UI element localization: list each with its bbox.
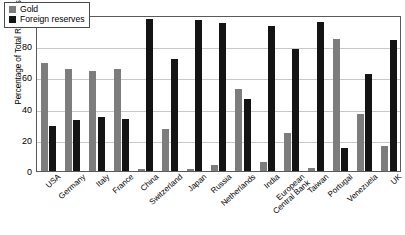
bar-gold	[260, 162, 267, 171]
x-tick-label: USA	[45, 173, 63, 190]
bar-foreign-reserves	[49, 126, 56, 171]
bar-gold	[89, 71, 96, 171]
bar-group	[232, 17, 256, 171]
bar-foreign-reserves	[98, 117, 105, 171]
y-tick-label-1: 20	[22, 136, 32, 146]
bar-gold	[357, 114, 364, 171]
bar-gold	[211, 165, 218, 171]
legend: GoldForeign reserves	[4, 2, 90, 28]
bar-gold	[333, 39, 340, 171]
x-axis-tick-labels: USAGermanyItalyFranceChinaSwitzerlandJap…	[36, 173, 401, 235]
bar-group	[305, 17, 329, 171]
bar-group	[329, 17, 353, 171]
bar-group	[207, 17, 231, 171]
bar-group	[61, 17, 85, 171]
bar-foreign-reserves	[341, 148, 348, 171]
bar-foreign-reserves	[292, 49, 299, 171]
x-tick-label: India	[263, 173, 282, 191]
y-tick-label-3: 60	[22, 73, 32, 83]
bar-group	[183, 17, 207, 171]
bar-group	[353, 17, 377, 171]
bar-foreign-reserves	[73, 120, 80, 171]
bar-foreign-reserves	[365, 74, 372, 171]
bar-gold	[41, 63, 48, 171]
x-tick-label: France	[112, 173, 136, 196]
bar-gold	[187, 169, 194, 171]
x-tick-label: Italy	[95, 173, 112, 189]
bar-group	[134, 17, 158, 171]
bar-foreign-reserves	[390, 40, 397, 171]
bar-foreign-reserves	[122, 119, 129, 171]
legend-swatch-icon	[9, 16, 16, 23]
bar-gold	[162, 129, 169, 171]
bar-foreign-reserves	[195, 20, 202, 171]
bar-gold	[381, 146, 388, 171]
bar-foreign-reserves	[219, 23, 226, 171]
legend-label: Foreign reserves	[20, 15, 84, 25]
bars-layer	[37, 17, 400, 171]
y-tick-label-2: 40	[22, 105, 32, 115]
bar-gold	[308, 168, 315, 171]
y-tick-label-4: 80	[22, 42, 32, 52]
bar-group	[280, 17, 304, 171]
bar-chart: Percentage of Total Reserves 02040608010…	[0, 0, 405, 235]
bar-group	[37, 17, 61, 171]
x-tick-label: Japan	[187, 173, 209, 194]
x-tick-label: UK	[390, 173, 404, 187]
bar-gold	[138, 169, 145, 171]
bar-gold	[65, 69, 72, 171]
bar-foreign-reserves	[268, 26, 275, 171]
plot-area	[36, 16, 401, 172]
bar-foreign-reserves	[244, 99, 251, 171]
bar-group	[256, 17, 280, 171]
y-tick-label-0: 0	[27, 167, 32, 177]
bar-group	[86, 17, 110, 171]
bar-foreign-reserves	[146, 19, 153, 171]
bar-group	[378, 17, 401, 171]
bar-gold	[235, 89, 242, 171]
bar-foreign-reserves	[171, 59, 178, 171]
bar-gold	[114, 69, 121, 171]
bar-group	[159, 17, 183, 171]
legend-item-foreign-reserves: Foreign reserves	[9, 15, 84, 25]
y-axis-tick-labels: 020406080100	[0, 0, 34, 235]
bar-foreign-reserves	[317, 22, 324, 171]
bar-group	[110, 17, 134, 171]
bar-gold	[284, 133, 291, 172]
legend-swatch-icon	[9, 6, 16, 13]
